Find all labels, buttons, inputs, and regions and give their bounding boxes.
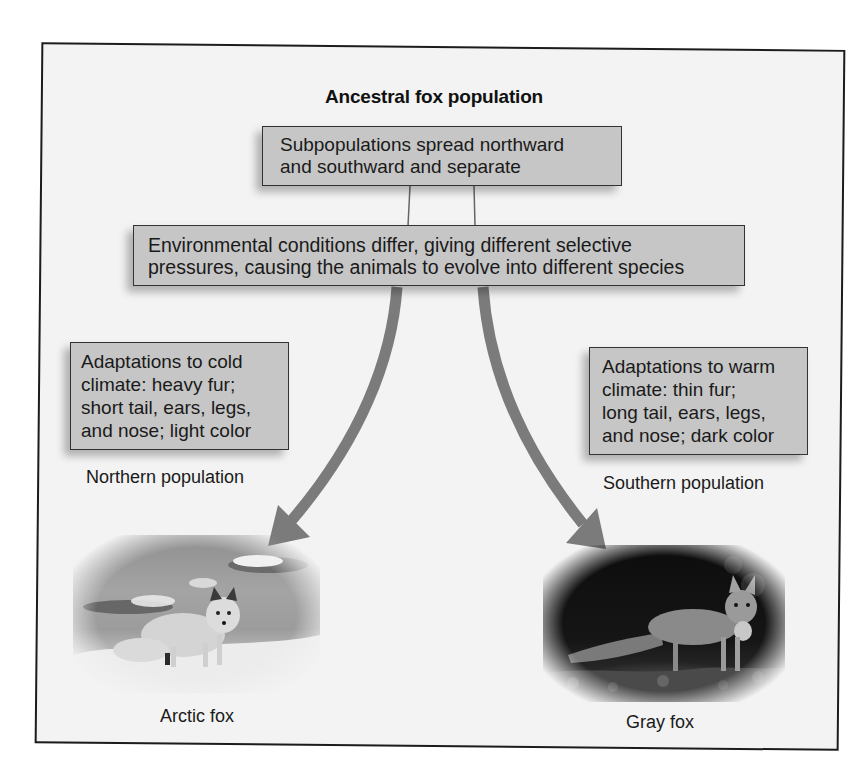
selection-step-box: Environmental conditions differ, giving … <box>133 225 745 286</box>
north-adaptation-line: and nose; light color <box>81 419 288 442</box>
south-adaptation-line: Adaptations to warm <box>602 355 807 378</box>
selection-step-line-1: Environmental conditions differ, giving … <box>148 234 744 256</box>
gray-fox-photo <box>543 545 785 702</box>
split-step-box: Subpopulations spread northward and sout… <box>262 126 622 186</box>
south-adaptations-box: Adaptations to warm climate: thin fur; l… <box>589 347 808 455</box>
split-step-line-2: and southward and separate <box>280 156 621 178</box>
north-adaptations-box: Adaptations to cold climate: heavy fur; … <box>70 342 289 450</box>
arctic-fox-photo <box>73 535 320 693</box>
arctic-fox-icon <box>73 535 320 693</box>
gray-fox-label: Gray fox <box>626 712 694 733</box>
selection-step-line-2: pressures, causing the animals to evolve… <box>148 256 744 278</box>
diagram-title: Ancestral fox population <box>0 86 868 108</box>
north-adaptation-line: climate: heavy fur; <box>81 373 288 396</box>
gray-fox-icon <box>543 545 785 702</box>
south-adaptation-line: long tail, ears, legs, <box>602 401 807 424</box>
south-adaptation-line: and nose; dark color <box>602 424 807 447</box>
north-adaptation-line: Adaptations to cold <box>81 350 288 373</box>
southern-population-label: Southern population <box>603 473 764 494</box>
arctic-fox-label: Arctic fox <box>160 706 234 727</box>
northern-population-label: Northern population <box>86 467 244 488</box>
south-adaptation-line: climate: thin fur; <box>602 378 807 401</box>
split-step-line-1: Subpopulations spread northward <box>280 134 621 156</box>
north-adaptation-line: short tail, ears, legs, <box>81 396 288 419</box>
